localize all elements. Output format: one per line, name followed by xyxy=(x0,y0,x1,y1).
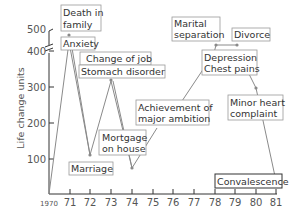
annotation-convalescence: Convalescence xyxy=(215,174,289,188)
point-1973 xyxy=(109,78,112,81)
y-tick-200: 200 xyxy=(27,118,46,129)
y-tick-300: 300 xyxy=(27,82,46,93)
x-tick-81: 81 xyxy=(270,197,283,208)
y-tick-500: 500 xyxy=(27,24,46,35)
svg-text:complaint: complaint xyxy=(230,108,277,119)
annotation-marriage: Marriage xyxy=(69,162,113,175)
x-tick-74: 74 xyxy=(126,197,139,208)
svg-text:Depression: Depression xyxy=(204,52,257,63)
svg-text:Change of job: Change of job xyxy=(86,53,152,64)
svg-text:Minor heart: Minor heart xyxy=(230,97,285,108)
point-1978 xyxy=(214,43,217,46)
x-tick-79: 79 xyxy=(229,197,242,208)
annotation-mortgage: Mortgage on house xyxy=(99,130,148,155)
svg-text:Marital: Marital xyxy=(174,18,207,29)
annotation-change-of-job: Change of job xyxy=(80,52,152,65)
annotation-anxiety: Anxiety xyxy=(61,37,99,50)
x-tick-75: 75 xyxy=(147,197,160,208)
y-tick-400: 400 xyxy=(27,46,46,57)
x-tick-72: 72 xyxy=(84,197,97,208)
x-axis xyxy=(49,189,277,194)
life-events-chart: 500 400 300 200 100 Life change units 19… xyxy=(0,0,298,213)
svg-text:Death in: Death in xyxy=(63,7,103,18)
point-1980 xyxy=(254,86,257,89)
svg-text:Convalescence: Convalescence xyxy=(217,176,289,187)
annotation-depression-chest-pains: Depression Chest pains xyxy=(202,50,260,75)
annotation-divorce: Divorce xyxy=(232,28,270,41)
svg-text:family: family xyxy=(63,19,93,30)
x-tick-80: 80 xyxy=(250,197,263,208)
point-1974 xyxy=(130,166,133,169)
svg-text:Stomach disorder: Stomach disorder xyxy=(81,66,165,77)
point-1972 xyxy=(88,153,91,156)
x-tick-71: 71 xyxy=(64,197,77,208)
y-axis-title: Life change units xyxy=(15,67,26,149)
svg-text:separation: separation xyxy=(174,29,225,40)
y-tick-100: 100 xyxy=(27,154,46,165)
x-tick-76: 76 xyxy=(167,197,180,208)
x-tick-1970: 1970 xyxy=(40,200,58,208)
annotation-marital-separation: Marital separation xyxy=(172,17,225,41)
point-1971 xyxy=(67,33,70,36)
point-1979 xyxy=(235,43,238,46)
life-change-line-4 xyxy=(249,74,276,181)
svg-text:Divorce: Divorce xyxy=(234,29,270,40)
svg-text:Achievement of: Achievement of xyxy=(138,102,213,113)
axis-break-icon xyxy=(45,44,53,51)
x-tick-77: 77 xyxy=(188,197,201,208)
svg-text:major ambition: major ambition xyxy=(138,113,210,124)
svg-text:Mortgage: Mortgage xyxy=(102,132,148,143)
svg-text:Anxiety: Anxiety xyxy=(63,38,99,49)
x-tick-78: 78 xyxy=(209,197,222,208)
annotation-death-in-family: Death in family xyxy=(61,5,103,31)
annotation-minor-heart-complaint: Minor heart complaint xyxy=(228,95,285,120)
svg-text:Chest pains: Chest pains xyxy=(204,63,260,74)
annotation-achievement: Achievement of major ambition xyxy=(136,100,213,125)
svg-text:Marriage: Marriage xyxy=(71,163,113,174)
x-tick-73: 73 xyxy=(105,197,118,208)
svg-text:on house: on house xyxy=(102,143,146,154)
annotation-stomach-disorder: Stomach disorder xyxy=(79,65,165,78)
